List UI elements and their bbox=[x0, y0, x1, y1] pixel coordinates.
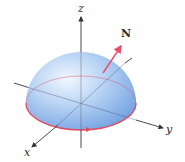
z-axis-label: z bbox=[78, 3, 84, 14]
x-axis bbox=[32, 125, 58, 147]
y-axis-back bbox=[14, 83, 30, 88]
y-axis bbox=[136, 120, 163, 128]
normal-vector-label: N bbox=[121, 28, 131, 39]
diagram-canvas bbox=[0, 0, 185, 162]
x-axis-back bbox=[125, 58, 132, 63]
hemisphere-diagram: z N x y bbox=[0, 0, 185, 162]
y-axis-label: y bbox=[166, 124, 172, 135]
x-axis-label: x bbox=[24, 147, 30, 158]
